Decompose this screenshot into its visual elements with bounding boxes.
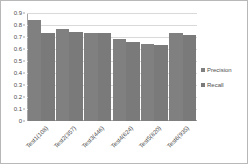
legend-swatch-icon [201, 68, 205, 72]
y-axis-tick-label: 0.9 [14, 10, 22, 16]
bar-precision [84, 33, 98, 121]
bar-precision [56, 29, 70, 121]
y-axis-tick-mark [23, 13, 25, 14]
y-axis-tick-mark [23, 61, 25, 62]
y-axis-tick-mark [23, 49, 25, 50]
bar-recall [69, 32, 83, 121]
chart-legend: PrecisionRecall [201, 67, 247, 97]
bar-precision [169, 33, 183, 121]
y-axis-tick-mark [23, 73, 25, 74]
bar-recall [183, 35, 197, 121]
bar-recall [41, 33, 55, 121]
x-axis-tick-label: Test2(357) [53, 125, 77, 149]
x-axis-tick-label: Test4(624) [110, 125, 134, 149]
bar-group [140, 13, 168, 121]
bar-group [169, 13, 197, 121]
x-axis-tick-label: Test6(935) [166, 125, 190, 149]
y-axis-tick-label: 0.1 [14, 106, 22, 112]
x-axis-tick-label: Test5(820) [138, 125, 162, 149]
bar-chart: 0.90.80.70.60.50.40.30.20.10 Test1(108)T… [0, 0, 248, 164]
bar-group [112, 13, 140, 121]
y-axis-tick-label: 0.2 [14, 94, 22, 100]
y-axis-tick-mark [23, 85, 25, 86]
bar-precision [113, 39, 127, 121]
legend-label: Recall [207, 82, 224, 88]
y-axis-tick-mark [23, 109, 25, 110]
legend-item[interactable]: Recall [201, 82, 247, 88]
y-axis-tick-label: 0.7 [14, 34, 22, 40]
legend-label: Precision [207, 67, 232, 73]
legend-item[interactable]: Precision [201, 67, 247, 73]
y-axis-tick-label: 0.6 [14, 46, 22, 52]
bar-group [84, 13, 112, 121]
y-axis-tick-mark [23, 37, 25, 38]
bar-recall [98, 33, 112, 121]
x-axis-tick-label: Test3(446) [81, 125, 105, 149]
y-axis: 0.90.80.70.60.50.40.30.20.10 [1, 13, 25, 121]
bar-group [55, 13, 83, 121]
y-axis-tick-label: 0 [19, 118, 22, 124]
legend-swatch-icon [201, 83, 205, 87]
plot-area [27, 13, 197, 121]
bar-precision [28, 20, 42, 121]
bar-recall [154, 45, 168, 121]
bar-recall [126, 42, 140, 121]
y-axis-tick-label: 0.4 [14, 70, 22, 76]
y-axis-tick-label: 0.8 [14, 22, 22, 28]
y-axis-tick-mark [23, 97, 25, 98]
y-axis-tick-label: 0.3 [14, 82, 22, 88]
bar-precision [141, 44, 155, 121]
y-axis-tick-label: 0.5 [14, 58, 22, 64]
x-axis: Test1(108)Test2(357)Test3(446)Test4(624)… [27, 123, 197, 163]
y-axis-tick-mark [23, 121, 25, 122]
x-axis-tick-label: Test1(108) [25, 125, 49, 149]
bar-group [27, 13, 55, 121]
y-axis-tick-mark [23, 25, 25, 26]
